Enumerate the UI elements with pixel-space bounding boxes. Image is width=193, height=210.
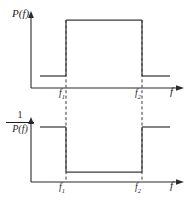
- bottom-panel-curve: [40, 127, 170, 172]
- bottom-x-axis-label: f: [170, 180, 173, 191]
- top-tick-label-f1: f1: [59, 89, 65, 100]
- bottom-tick-f1-subscript: 1: [62, 187, 65, 194]
- bottom-tick-f2-subscript: 2: [138, 187, 141, 194]
- top-tick-label-f2: f2: [135, 89, 141, 100]
- top-panel-curve: [40, 20, 170, 76]
- bottom-x-axis-arrow-icon: [176, 179, 184, 185]
- top-tick-f2-subscript: 2: [138, 93, 141, 100]
- figure-container: P(f) 1 P(f) f1 f2 f1 f2 f f: [0, 0, 193, 210]
- band-edge-guides: [66, 20, 142, 182]
- top-panel-axes: [28, 11, 184, 91]
- top-y-axis-label: P(f): [12, 8, 29, 19]
- bottom-tick-label-f2: f2: [135, 183, 141, 194]
- bottom-y-axis-label-numerator: 1: [5, 110, 35, 121]
- bottom-y-axis-label-denominator: P(f): [5, 124, 35, 135]
- bottom-tick-label-f1: f1: [59, 183, 65, 194]
- top-x-axis-label: f: [170, 86, 173, 97]
- bottom-y-axis-label: 1 P(f): [5, 110, 35, 134]
- top-x-axis-arrow-icon: [176, 85, 184, 91]
- figure-svg: [0, 0, 193, 210]
- top-tick-f1-subscript: 1: [62, 93, 65, 100]
